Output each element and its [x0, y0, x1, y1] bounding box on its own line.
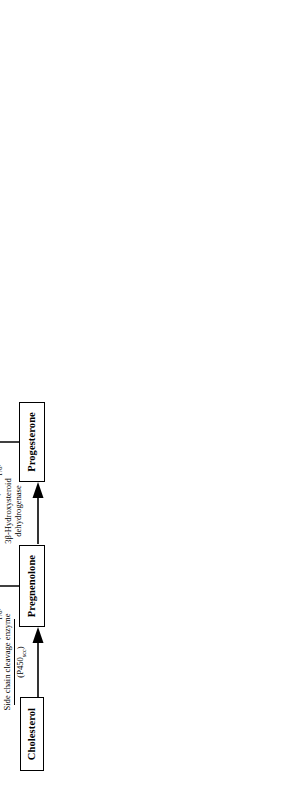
- node-pregnenolone[interactable]: Pregnenolone: [19, 545, 45, 627]
- pathway-diagram-canvas: Cholesterol Side chain cleavage enzyme (…: [0, 0, 305, 789]
- hydroxylase-1-code-suffix: ): [0, 608, 1, 611]
- enzyme-3b-hsd-pregnenolone-line1: 3β-Hydroxysteroid: [3, 469, 13, 553]
- scc-code-prefix: (P450: [15, 657, 25, 678]
- arrow-pregnenolone-to-hydroxypregnenolone: [0, 580, 20, 592]
- node-progesterone[interactable]: Progesterone: [19, 402, 45, 482]
- enzyme-17a-hydroxylase-2-code: (P45017α): [0, 449, 3, 511]
- enzyme-side-chain-cleavage-name: Side chain cleavage enzyme: [2, 613, 12, 710]
- scc-code-suffix: ): [15, 646, 25, 649]
- hydroxylase-1-code-prefix: (P450: [0, 620, 1, 641]
- arrow-cholesterol-to-pregnenolone: [32, 627, 44, 697]
- enzyme-17a-hydroxylase-1-code: (P45017α): [0, 593, 3, 655]
- arrow-progesterone-to-hydroxyprogesterone: [0, 436, 20, 448]
- enzyme-side-chain-cleavage-code: (P450scc): [15, 619, 27, 705]
- node-cholesterol[interactable]: Cholesterol: [20, 697, 44, 771]
- hydroxylase-1-code-subscript: 17α: [0, 610, 3, 619]
- scc-code-subscript: scc: [20, 649, 27, 657]
- hydroxylase-2-code-prefix: (P450: [0, 476, 1, 497]
- hydroxylase-2-code-suffix: ): [0, 464, 1, 467]
- arrow-pregnenolone-to-progesterone: [32, 482, 44, 544]
- enzyme-side-chain-cleavage: Side chain cleavage enzyme: [2, 612, 12, 712]
- hydroxylase-2-code-subscript: 17α: [0, 466, 3, 475]
